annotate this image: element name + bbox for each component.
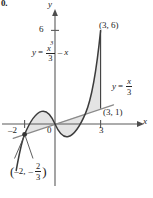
line-eq-numerator: x <box>126 77 132 86</box>
point-label-3-1: (3, 1) <box>103 108 123 117</box>
line-eq-equals: = <box>118 82 123 91</box>
curve-eq-lhs: y <box>32 48 36 57</box>
line-eq-fraction: x 3 <box>126 77 132 96</box>
tick-label-x-neg-2: –2 <box>8 126 17 135</box>
curve-eq-fraction: x3 3 <box>46 42 55 63</box>
shaded-region-right <box>85 30 100 113</box>
min-denominator: 3 <box>35 171 41 181</box>
y-axis-label: y <box>48 0 52 9</box>
min-minus-sign: – <box>29 167 34 176</box>
curve-eq-exponent: 3 <box>50 40 53 46</box>
curve-eq-term: x <box>64 48 68 57</box>
line-equation-label: y = x 3 <box>112 77 133 96</box>
problem-number: 0. <box>1 0 7 8</box>
curve-eq-operator: – <box>58 48 63 57</box>
min-fraction: 2 3 <box>35 162 41 181</box>
min-x-value: –2 <box>14 167 23 176</box>
figure-container: 0. y x 6 0 3 –2 (3, 6) (3, 1) y = x3 3 –… <box>0 0 153 198</box>
curve-eq-numerator: x3 <box>46 42 55 53</box>
curve-eq-equals: = <box>38 48 43 57</box>
tick-label-origin: 0 <box>47 126 52 135</box>
min-numerator: 2 <box>35 162 41 171</box>
min-comma: , <box>23 167 25 176</box>
curve-eq-denominator: 3 <box>46 53 55 63</box>
min-close-paren: ) <box>42 165 46 178</box>
line-eq-lhs: y <box>112 82 116 91</box>
point-label-3-6: (3, 6) <box>99 21 119 30</box>
leader-lines <box>15 136 34 158</box>
point-marker-minimum <box>22 132 27 137</box>
tick-label-x-3: 3 <box>99 126 104 135</box>
line-eq-denominator: 3 <box>126 86 132 96</box>
y-axis <box>52 9 58 186</box>
tick-label-y-6: 6 <box>39 25 44 34</box>
x-axis-label: x <box>143 117 147 126</box>
point-label-minimum: ( –2 , – 2 3 ) <box>10 162 47 181</box>
curve-equation-label: y = x3 3 – x <box>32 42 68 63</box>
